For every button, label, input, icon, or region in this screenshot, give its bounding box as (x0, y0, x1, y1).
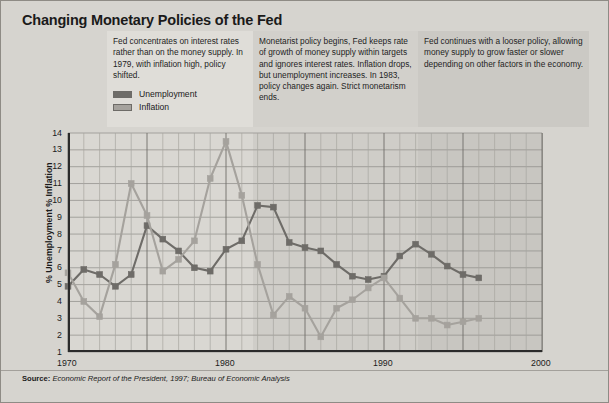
data-series-layer (68, 133, 542, 352)
y-tick-8: 8 (38, 229, 62, 239)
legend-label-inflation: Inflation (139, 102, 169, 112)
legend-swatch-inflation (113, 104, 132, 111)
y-tick-4: 4 (38, 296, 62, 306)
legend-item-inflation: Inflation (113, 101, 197, 113)
source-note: Source: Economic Report of the President… (22, 374, 290, 383)
y-tick-2: 2 (38, 330, 62, 340)
y-tick-1: 1 (38, 347, 62, 357)
y-tick-6: 6 (38, 262, 62, 272)
legend-item-unemployment: Unemployment (113, 88, 197, 100)
y-tick-11: 11 (38, 178, 62, 188)
era-annotation-1: Fed concentrates on interest rates rathe… (113, 36, 251, 81)
legend-swatch-unemployment (113, 91, 132, 98)
source-prefix: Source: (22, 374, 50, 383)
legend-label-unemployment: Unemployment (139, 89, 197, 99)
chart-title: Changing Monetary Policies of the Fed (22, 12, 282, 28)
x-tick-2000: 2000 (531, 358, 551, 368)
plot-area: % Unemployment % Inflation (68, 133, 542, 352)
y-tick-10: 10 (38, 195, 62, 205)
chart-legend: Unemployment Inflation (113, 88, 197, 114)
source-divider (0, 370, 609, 371)
y-tick-7: 7 (38, 245, 62, 255)
era-annotation-3: Fed continues with a looser policy, allo… (424, 36, 584, 70)
era-annotation-2: Monetarist policy begins, Fed keeps rate… (259, 36, 412, 104)
y-tick-5: 5 (38, 279, 62, 289)
y-tick-12: 12 (38, 161, 62, 171)
x-tick-1990: 1990 (373, 358, 393, 368)
y-tick-9: 9 (38, 212, 62, 222)
x-tick-1980: 1980 (215, 358, 235, 368)
source-text: Economic Report of the President, 1997; … (52, 374, 289, 383)
chart-figure: Changing Monetary Policies of the Fed Fe… (0, 0, 609, 403)
plot-right-edge (542, 133, 543, 352)
y-tick-3: 3 (38, 313, 62, 323)
x-tick-1970: 1970 (57, 358, 77, 368)
y-tick-13: 13 (38, 144, 62, 154)
y-tick-14: 14 (38, 128, 62, 138)
